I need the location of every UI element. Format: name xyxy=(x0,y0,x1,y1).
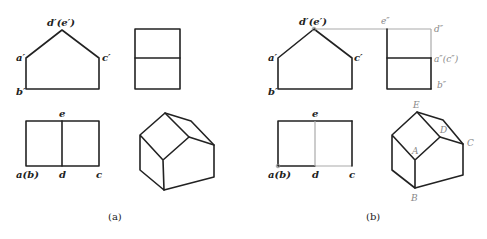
label-e-double: e″ xyxy=(381,16,390,26)
front-view-b xyxy=(278,29,352,89)
label-C: C xyxy=(467,138,474,148)
label-d-double: d″ xyxy=(434,24,444,34)
front-view-a xyxy=(26,30,99,89)
side-view-b xyxy=(387,29,431,89)
label-a-b: a(b) xyxy=(16,169,39,180)
side-view-a xyxy=(135,29,180,89)
label-b-prime-b: b′ xyxy=(268,86,278,97)
diagram-canvas: d′(e′) a′ c′ b′ e a(b) d c (a) d′(e′) a′… xyxy=(0,0,487,239)
label-c-prime: c′ xyxy=(102,52,111,63)
label-D: D xyxy=(439,125,447,135)
panel-a: d′(e′) a′ c′ b′ e a(b) d c (a) xyxy=(16,17,214,222)
label-A: A xyxy=(411,146,419,156)
caption-a: (a) xyxy=(108,211,122,222)
label-d: d xyxy=(59,169,66,180)
panel-b: d′(e′) a′ c′ b′ e″ d″ a″(c″) b″ e a(b) d… xyxy=(268,16,474,222)
isometric-view-a xyxy=(140,113,214,190)
label-d-e-prime: d′(e′) xyxy=(47,17,75,28)
label-e: e xyxy=(59,108,65,119)
label-B: B xyxy=(410,193,418,203)
label-a-b-b: a(b) xyxy=(268,169,291,180)
label-e-b: e xyxy=(312,108,318,119)
label-d-e-prime-b: d′(e′) xyxy=(299,16,327,27)
label-c-prime-b: c′ xyxy=(354,52,363,63)
label-E: E xyxy=(412,100,420,110)
label-a-c-double: a″(c″) xyxy=(434,54,459,64)
label-b-double: b″ xyxy=(437,80,447,90)
label-a-prime: a′ xyxy=(16,52,25,63)
label-c: c xyxy=(96,169,102,180)
caption-b: (b) xyxy=(366,211,380,222)
label-d-b: d xyxy=(312,169,319,180)
label-c-b: c xyxy=(349,169,355,180)
label-a-prime-b: a′ xyxy=(268,52,277,63)
isometric-view-b xyxy=(392,112,463,188)
label-b-prime: b′ xyxy=(16,86,26,97)
